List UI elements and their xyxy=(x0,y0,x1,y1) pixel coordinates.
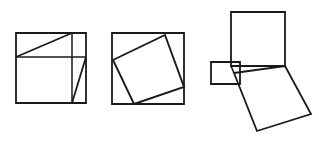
figure-canvas xyxy=(0,0,319,141)
canvas-background xyxy=(0,0,319,141)
